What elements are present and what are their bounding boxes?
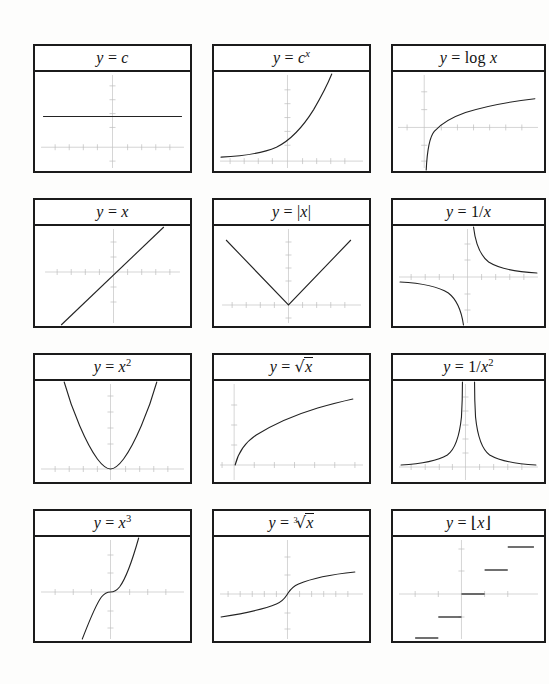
- panel-cube[interactable]: y = x3: [33, 509, 192, 643]
- plot-square-root: [214, 381, 369, 482]
- plot-floor: [393, 537, 544, 641]
- formula-absolute-value: y = |x|: [272, 204, 311, 220]
- plot-absolute-value: [214, 226, 369, 326]
- panel-title-square-root: y = √x: [214, 355, 369, 381]
- plot-cube-root: [214, 537, 369, 641]
- plot-logarithm: [393, 72, 544, 171]
- panel-identity[interactable]: y = x: [33, 198, 192, 328]
- panel-title-constant: y = c: [35, 46, 190, 72]
- formula-reciprocal-square: y = 1/x2: [443, 359, 494, 375]
- panel-title-logarithm: y = log x: [393, 46, 544, 72]
- formula-square: y = x2: [94, 359, 132, 375]
- formula-cube-root: y = 3√x: [269, 515, 315, 531]
- reference-sheet: y = c: [0, 0, 549, 684]
- panel-constant[interactable]: y = c: [33, 44, 192, 173]
- panel-title-absolute-value: y = |x|: [214, 200, 369, 226]
- panel-title-square: y = x2: [35, 355, 190, 381]
- plot-identity: [35, 226, 190, 326]
- panel-reciprocal[interactable]: y = 1/x: [391, 198, 546, 328]
- formula-exponential: y = cx: [273, 50, 310, 66]
- panel-title-floor: y = ⌊x⌋: [393, 511, 544, 537]
- panel-title-reciprocal: y = 1/x: [393, 200, 544, 226]
- panel-square[interactable]: y = x2: [33, 353, 192, 484]
- formula-identity: y = x: [96, 204, 128, 220]
- formula-floor: y = ⌊x⌋: [446, 515, 491, 531]
- panel-title-reciprocal-square: y = 1/x2: [393, 355, 544, 381]
- panel-floor[interactable]: y = ⌊x⌋: [391, 509, 546, 643]
- function-panel-grid: y = c: [33, 44, 526, 645]
- formula-reciprocal: y = 1/x: [446, 204, 491, 220]
- formula-logarithm: y = log x: [440, 50, 498, 66]
- panel-cube-root[interactable]: y = 3√x: [212, 509, 371, 643]
- plot-reciprocal: [393, 226, 544, 326]
- panel-logarithm[interactable]: y = log x: [391, 44, 546, 173]
- plot-square: [35, 381, 190, 482]
- panel-title-exponential: y = cx: [214, 46, 369, 72]
- panel-title-cube: y = x3: [35, 511, 190, 537]
- panel-square-root[interactable]: y = √x: [212, 353, 371, 484]
- plot-exponential: [214, 72, 369, 171]
- formula-cube: y = x3: [94, 515, 132, 531]
- plot-cube: [35, 537, 190, 641]
- panel-title-identity: y = x: [35, 200, 190, 226]
- panel-title-cube-root: y = 3√x: [214, 511, 369, 537]
- plot-reciprocal-square: [393, 381, 544, 482]
- panel-reciprocal-square[interactable]: y = 1/x2: [391, 353, 546, 484]
- formula-constant: y = c: [96, 50, 128, 66]
- panel-exponential[interactable]: y = cx: [212, 44, 371, 173]
- plot-constant: [35, 72, 190, 171]
- panel-absolute-value[interactable]: y = |x|: [212, 198, 371, 328]
- formula-square-root: y = √x: [270, 359, 314, 375]
